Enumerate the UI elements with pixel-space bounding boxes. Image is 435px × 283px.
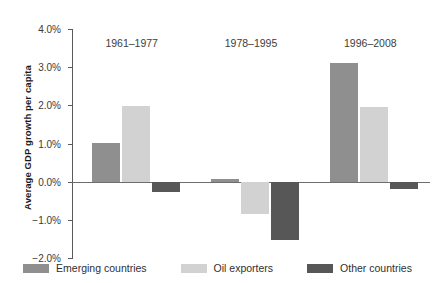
bar [360,107,388,181]
bar [152,182,180,192]
bar-group: 1978–1995 [191,29,310,258]
group-label: 1978–1995 [191,37,310,49]
group-label: 1961–1977 [72,37,191,49]
legend-item: Other countries [307,262,412,274]
chart-legend: Emerging countriesOil exportersOther cou… [0,262,435,274]
bar [241,182,269,214]
bar-group: 1996–2008 [311,29,430,258]
bar [330,63,358,181]
legend-swatch [23,264,49,273]
bar [390,182,418,189]
y-axis-tick-label: 4.0% [38,24,61,35]
y-axis-tick-label: 3.0% [38,62,61,73]
gdp-growth-bar-chart: Average GDP growth per capita 4.0%3.0%2.… [0,0,435,283]
bar [271,182,299,240]
legend-label: Emerging countries [56,262,146,274]
y-axis-tick-label: −1.0% [32,214,61,225]
bar [92,143,120,182]
legend-label: Oil exporters [214,262,274,274]
legend-swatch [181,264,207,273]
y-axis-tick: −2.0% [68,258,73,259]
y-axis-tick-label: 0.0% [38,176,61,187]
plot-area: 4.0%3.0%2.0%1.0%0.0%−1.0%−2.0%1961–19771… [72,29,430,258]
bar [211,179,239,182]
bar-group: 1961–1977 [72,29,191,258]
legend-item: Emerging countries [23,262,146,274]
group-label: 1996–2008 [311,37,430,49]
y-axis-tick-label: 2.0% [38,100,61,111]
legend-label: Other countries [340,262,412,274]
y-axis-title: Average GDP growth per capita [22,33,33,243]
y-axis-tick-label: 1.0% [38,138,61,149]
bar [122,106,150,182]
legend-swatch [307,264,333,273]
legend-item: Oil exporters [181,262,274,274]
